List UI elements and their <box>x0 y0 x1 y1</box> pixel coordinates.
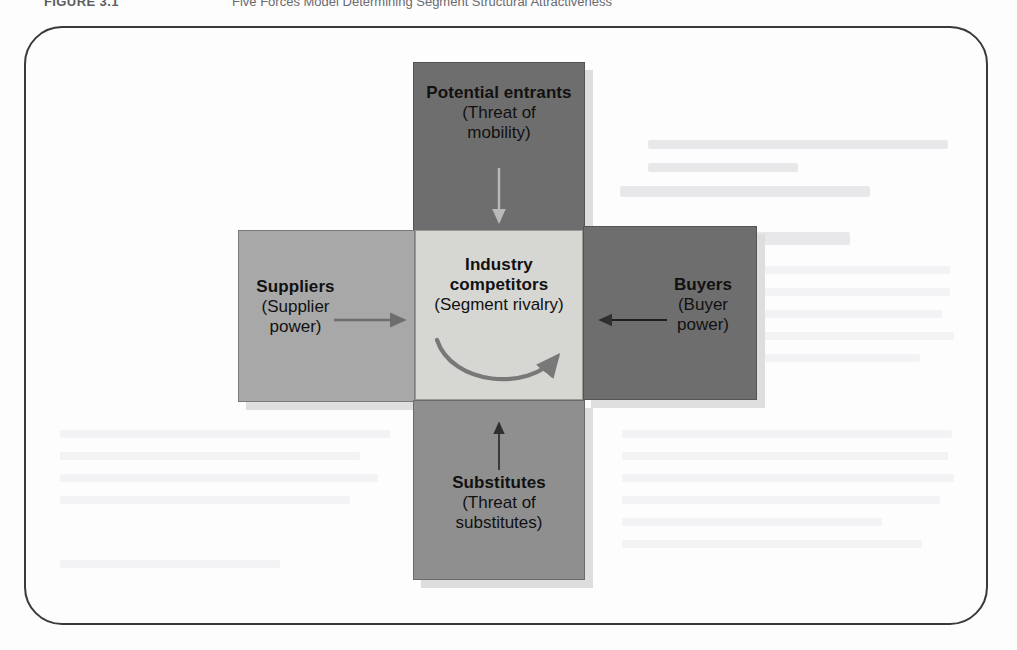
force-box-title-buyers: Buyers <box>617 275 789 295</box>
five-forces-diagram: Potential entrants (Threat of mobility) … <box>0 0 1017 650</box>
force-box-suppliers: Suppliers (Supplier power) <box>238 230 415 402</box>
force-box-subtitle-suppliers-line2: power) <box>208 317 383 337</box>
force-box-subtitle-suppliers-line1: (Supplier <box>208 297 383 317</box>
force-box-potential-entrants: Potential entrants (Threat of mobility) <box>413 62 585 234</box>
force-box-title-suppliers: Suppliers <box>208 277 383 297</box>
force-box-subtitle-substitutes-line2: substitutes) <box>414 513 584 533</box>
force-box-title-substitutes: Substitutes <box>414 473 584 493</box>
force-box-subtitle-potential-entrants-line1: (Threat of <box>414 103 584 123</box>
force-box-substitutes: Substitutes (Threat of substitutes) <box>413 400 585 580</box>
force-box-subtitle-buyers-line2: power) <box>617 315 789 335</box>
force-box-subtitle-buyers-line1: (Buyer <box>617 295 789 315</box>
force-box-title-potential-entrants: Potential entrants <box>414 83 584 103</box>
force-box-buyers: Buyers (Buyer power) <box>583 226 757 400</box>
force-box-title-industry-competitors-line1: Industry <box>416 255 582 275</box>
force-box-subtitle-potential-entrants-line2: mobility) <box>414 123 584 143</box>
force-box-subtitle-substitutes-line1: (Threat of <box>414 493 584 513</box>
